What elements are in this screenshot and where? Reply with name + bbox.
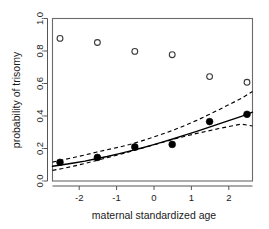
y-axis-title: probability of trisomy xyxy=(10,51,22,148)
x-tick-label-2: 2 xyxy=(226,192,231,203)
x-tick-label--1: -1 xyxy=(112,192,120,203)
x-tick-label-0: 0 xyxy=(151,192,156,203)
y-tick-label-0.0: 0.0 xyxy=(34,174,45,187)
y-tick-label-0.4: 0.4 xyxy=(34,109,45,122)
data-point-open-1 xyxy=(57,36,63,42)
y-tick-label-0.8: 0.8 xyxy=(34,44,45,57)
data-point-filled-2 xyxy=(94,154,101,161)
data-point-open-4 xyxy=(169,52,175,58)
data-point-open-5 xyxy=(207,74,213,80)
x-axis-title: maternal standardized age xyxy=(92,209,216,221)
x-tick-label-1: 1 xyxy=(189,192,194,203)
y-tick-label-0.6: 0.6 xyxy=(34,77,45,90)
data-point-filled-4 xyxy=(169,141,176,148)
data-point-open-2 xyxy=(95,40,101,46)
data-point-filled-3 xyxy=(131,144,138,151)
data-point-filled-1 xyxy=(57,159,64,166)
data-point-filled-6 xyxy=(244,111,251,118)
y-tick-label-1.0: 1.0 xyxy=(34,12,45,25)
trisomy-probability-scatter-plot: 1.0 0.8 0.6 0.4 0.2 0.0 -2 -1 0 1 2 mate… xyxy=(0,0,269,229)
y-tick-label-0.2: 0.2 xyxy=(34,142,45,155)
data-point-filled-5 xyxy=(206,118,213,125)
data-point-open-3 xyxy=(132,49,138,55)
data-point-open-6 xyxy=(244,79,250,85)
chart-figure: 1.0 0.8 0.6 0.4 0.2 0.0 -2 -1 0 1 2 mate… xyxy=(0,0,269,229)
x-tick-label--2: -2 xyxy=(75,192,83,203)
